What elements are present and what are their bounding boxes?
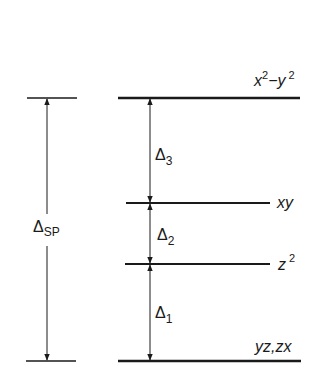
delta1-label: Δ1 (155, 304, 173, 326)
label-yz-zx: yz,zx (254, 338, 292, 355)
delta-sp-label: ΔSP (33, 218, 60, 239)
crystal-field-splitting-diagram: ΔSP x2−y2 xy z2 yz,zx Δ3 Δ2 Δ1 (0, 0, 327, 385)
label-xy: xy (276, 194, 294, 211)
delta2-label: Δ2 (157, 226, 175, 248)
label-x2-y2: x2−y2 (253, 69, 295, 89)
label-z2: z2 (277, 252, 295, 273)
delta3-label: Δ3 (155, 146, 173, 168)
